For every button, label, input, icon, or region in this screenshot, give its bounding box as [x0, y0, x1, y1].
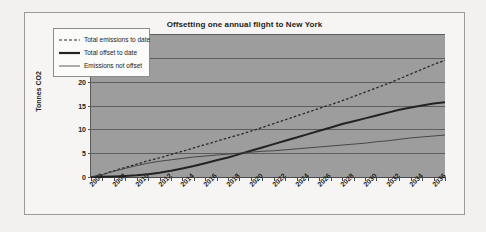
series-line [91, 60, 445, 177]
chart-figure: Offsetting one annual flight to New York… [24, 12, 465, 215]
y-tick-label: 20 [78, 78, 86, 85]
series-line [91, 135, 445, 177]
legend-key-dashed-icon [59, 36, 80, 44]
legend-key-solid-thin-icon [59, 62, 80, 70]
series-line [91, 102, 445, 177]
y-axis-title: Tonnes CO2 [35, 52, 42, 132]
chart-legend: Total emissions to date Total offset to … [53, 28, 150, 77]
legend-label: Total emissions to date [84, 36, 150, 43]
legend-label: Emissions not offset [84, 62, 142, 69]
legend-item-emissions-not-offset: Emissions not offset [57, 59, 146, 72]
y-tick-label: 10 [78, 126, 86, 133]
y-tick-label: 5 [82, 150, 86, 157]
legend-item-total-offset-to-date: Total offset to date [57, 46, 146, 59]
y-tick-label: 15 [78, 102, 86, 109]
legend-key-solid-thick-icon [59, 49, 80, 57]
legend-label: Total offset to date [84, 49, 137, 56]
y-tick-label: 0 [82, 174, 86, 181]
legend-item-total-emissions-to-date: Total emissions to date [57, 33, 146, 46]
